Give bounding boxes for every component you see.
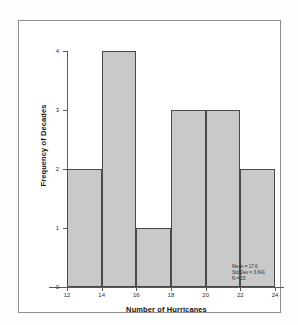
x-tick-mark-24 [275, 287, 276, 291]
x-tick-mark-18 [171, 287, 172, 291]
x-axis-line [49, 287, 284, 288]
x-tick-label-22: 22 [230, 292, 250, 299]
x-tick-label-16: 16 [126, 292, 146, 299]
x-tick-label-18: 18 [161, 292, 181, 299]
stat-n: N = 15 [232, 276, 265, 282]
histogram-bar [67, 169, 102, 287]
x-tick-mark-22 [240, 287, 241, 291]
x-tick-label-24: 24 [265, 292, 285, 299]
x-tick-label-12: 12 [57, 292, 77, 299]
x-tick-mark-12 [67, 287, 68, 291]
x-axis-title: Number of Hurricanes [49, 305, 284, 314]
y-tick-label-4: 4 [45, 48, 59, 54]
x-tick-label-20: 20 [196, 292, 216, 299]
x-tick-mark-20 [206, 287, 207, 291]
x-tick-mark-14 [102, 287, 103, 291]
histogram-bar [136, 228, 171, 287]
y-tick-label-0: 0 [45, 284, 59, 290]
x-tick-label-14: 14 [92, 292, 112, 299]
histogram-bar [102, 51, 137, 287]
histogram-bar [171, 110, 206, 287]
plot-area [67, 51, 275, 287]
y-tick-label-1: 1 [45, 225, 59, 231]
histogram-screenshot: 0 1 2 3 4 12 14 16 18 20 22 24 Number of [0, 0, 298, 325]
y-axis-title: Frequency of Decades [39, 66, 48, 226]
figure-frame: 0 1 2 3 4 12 14 16 18 20 22 24 Number of [18, 20, 281, 313]
x-tick-mark-16 [136, 287, 137, 291]
statistics-annotation: Mean = 17.6 Std Dev = 3.641 N = 15 [232, 264, 265, 282]
histogram-bar [206, 110, 241, 287]
